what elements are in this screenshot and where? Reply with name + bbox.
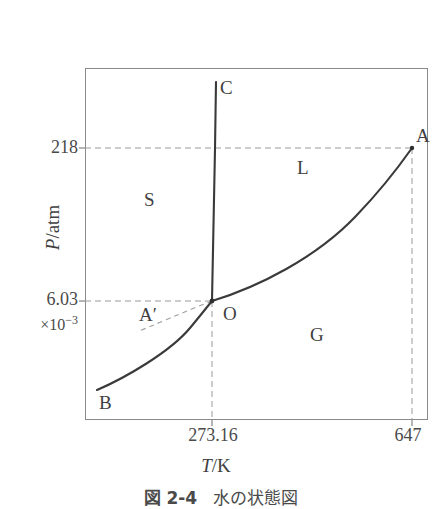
x-axis-title-rest: /K bbox=[212, 455, 231, 476]
x-axis-title: T/K bbox=[171, 456, 261, 475]
y-tick-label-603: 6.03 bbox=[8, 290, 78, 308]
region-label-liquid: L bbox=[297, 158, 309, 177]
y-tick-exponent-sup: −3 bbox=[65, 313, 78, 327]
region-label-gas: G bbox=[310, 325, 324, 344]
y-tick-exponent: ×10−3 bbox=[8, 314, 78, 333]
y-axis-title: P/atm bbox=[43, 168, 62, 288]
region-label-solid: S bbox=[144, 190, 155, 209]
x-axis-title-symbol: T bbox=[201, 455, 212, 476]
figure-caption: 図 2-4 水の状態図 bbox=[0, 484, 442, 509]
y-tick-exponent-base: ×10 bbox=[40, 316, 65, 333]
x-tick-label-647: 647 bbox=[378, 426, 438, 444]
y-axis-title-symbol: P bbox=[42, 239, 63, 251]
plot-frame bbox=[85, 68, 428, 420]
point-label-c: C bbox=[220, 78, 233, 97]
figure-caption-number: 図 2-4 bbox=[144, 488, 198, 508]
point-label-a-prime: A′ bbox=[139, 305, 157, 324]
point-label-b: B bbox=[99, 393, 112, 412]
point-label-a: A bbox=[416, 126, 430, 145]
figure-caption-text: 水の状態図 bbox=[213, 488, 298, 508]
point-label-o: O bbox=[223, 304, 237, 323]
y-axis-title-rest: /atm bbox=[42, 205, 63, 239]
x-tick-label-27316: 273.16 bbox=[165, 426, 261, 444]
y-tick-label-218: 218 bbox=[18, 138, 78, 156]
